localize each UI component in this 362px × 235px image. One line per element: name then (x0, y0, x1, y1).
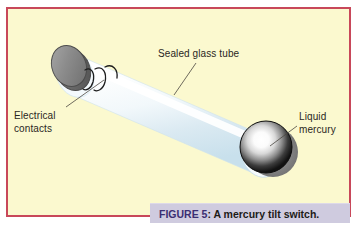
figure-caption-text: FIGURE 5: A mercury tilt switch. (159, 208, 319, 220)
figure-container: Sealed glass tube Electrical contacts Li… (0, 0, 362, 235)
figure-caption-bar: FIGURE 5: A mercury tilt switch. (150, 203, 350, 223)
label-liquid-mercury-line1: Liquid (299, 110, 336, 123)
label-electrical-contacts-line1: Electrical (14, 109, 56, 122)
label-electrical-contacts: Electrical contacts (14, 109, 56, 135)
label-sealed-glass-tube: Sealed glass tube (158, 47, 239, 60)
label-liquid-mercury-line2: mercury (299, 123, 336, 136)
label-electrical-contacts-line2: contacts (14, 122, 56, 135)
label-liquid-mercury: Liquid mercury (299, 110, 336, 136)
figure-number: FIGURE 5 (159, 208, 207, 220)
figure-caption-title: A mercury tilt switch. (213, 208, 319, 220)
label-sealed-glass-tube-text: Sealed glass tube (158, 48, 239, 59)
